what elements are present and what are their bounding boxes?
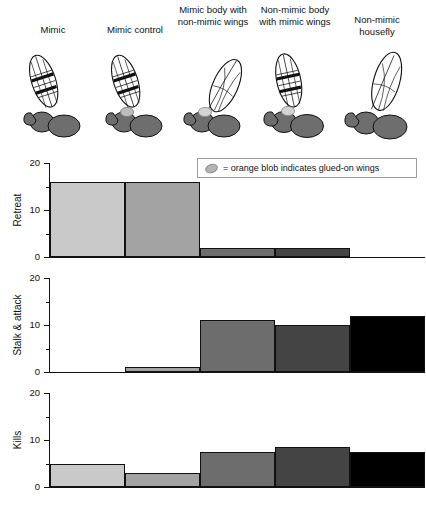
fly-icon <box>254 50 336 142</box>
fly-illustration-banded-glued-2 <box>254 50 336 142</box>
plot-area <box>50 393 425 487</box>
fly-icon <box>12 50 94 142</box>
bar <box>350 452 425 487</box>
y-axis-title: Retreat <box>12 163 28 257</box>
y-tick-major <box>44 487 49 488</box>
specimen-label: Mimic body with non-mimic wings <box>172 4 254 27</box>
y-axis-title: Kills <box>12 393 28 487</box>
specimen-nonmimic-body-mimic-wings: Non-mimic body with mimic wings <box>254 0 336 150</box>
glue-blob-icon <box>282 106 295 115</box>
y-tick-minor <box>46 464 50 465</box>
x-axis-line <box>49 257 425 258</box>
bar <box>275 447 350 487</box>
bar <box>125 367 200 372</box>
fly-illustration-clear <box>336 50 418 142</box>
fly-icon <box>172 50 254 142</box>
bar <box>200 248 275 257</box>
plot-area <box>50 278 425 372</box>
figure-root: Mimic Mimic contro <box>0 0 426 505</box>
specimen-nonmimic-housefly: Non-mimic housefly <box>336 0 418 150</box>
fly-illustration-banded-glued <box>94 50 176 142</box>
bar <box>350 316 425 372</box>
bar <box>275 325 350 372</box>
fly-illustration-clear-glued <box>172 50 254 142</box>
y-tick-minor <box>46 302 50 303</box>
y-tick-major <box>44 393 49 394</box>
specimen-mimic-body-nonmimic-wings: Mimic body with non-mimic wings <box>172 0 254 150</box>
y-tick-major <box>44 163 49 164</box>
chart-panel-retreat: 01020Retreat <box>0 155 426 265</box>
y-tick-minor <box>46 417 50 418</box>
bar <box>200 320 275 372</box>
fly-icon <box>94 50 176 142</box>
y-tick-minor <box>46 349 50 350</box>
bar <box>50 182 125 257</box>
specimen-label: Mimic control <box>94 24 176 36</box>
bar <box>200 452 275 487</box>
y-axis-title: Stalk & attack <box>12 278 28 372</box>
fly-illustration-banded <box>12 50 94 142</box>
chart-panel-kills: 01020Kills <box>0 385 426 495</box>
specimen-label: Mimic <box>12 24 94 36</box>
bar <box>275 248 350 257</box>
glue-blob-icon <box>199 107 212 116</box>
specimen-label: Non-mimic housefly <box>336 14 418 37</box>
y-tick-minor <box>46 234 50 235</box>
fly-icon <box>336 50 418 142</box>
y-tick-major <box>44 278 49 279</box>
y-tick-major <box>44 210 49 211</box>
y-tick-major <box>44 372 49 373</box>
y-tick-major <box>44 257 49 258</box>
x-axis-line <box>49 372 425 373</box>
y-tick-major <box>44 440 49 441</box>
specimen-row: Mimic Mimic contro <box>0 0 426 150</box>
x-axis-line <box>49 487 425 488</box>
specimen-mimic: Mimic <box>12 0 94 150</box>
specimen-label: Non-mimic body with mimic wings <box>254 4 336 27</box>
bar <box>125 473 200 487</box>
bar <box>125 182 200 257</box>
plot-area <box>50 163 425 257</box>
specimen-mimic-control: Mimic control <box>94 0 176 150</box>
y-tick-minor <box>46 187 50 188</box>
bar <box>50 464 125 488</box>
y-tick-major <box>44 325 49 326</box>
glue-blob-icon <box>121 107 134 116</box>
chart-panel-stalk-attack: 01020Stalk & attack <box>0 270 426 380</box>
